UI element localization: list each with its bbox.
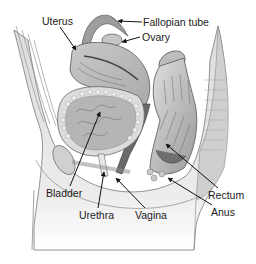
label-rectum: Rectum (208, 190, 244, 201)
pelvic-anatomy-diagram (0, 0, 256, 264)
label-bladder: Bladder (46, 188, 82, 199)
label-ovary: Ovary (142, 32, 170, 43)
label-urethra: Urethra (79, 210, 114, 221)
label-fallopian-tube: Fallopian tube (143, 17, 209, 28)
ovary-arrow (122, 37, 140, 42)
label-anus: Anus (211, 207, 235, 218)
uterus-arrow (60, 27, 76, 50)
fallopian-tube-arrow (118, 21, 142, 22)
rectum-shape (150, 46, 197, 174)
label-vagina: Vagina (135, 210, 167, 221)
label-uterus: Uterus (42, 16, 73, 27)
